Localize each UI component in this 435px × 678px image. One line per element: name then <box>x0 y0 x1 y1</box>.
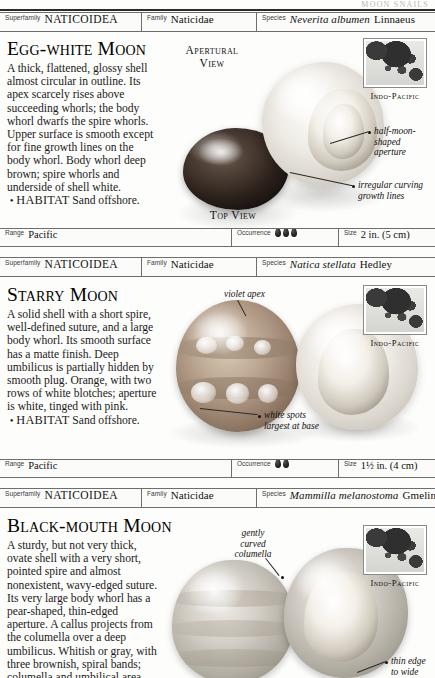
superfamily-value: NATICOIDEA <box>44 13 118 25</box>
taxonomy-species-cell: Species Natica stellata Hedley <box>257 258 435 276</box>
occurrence-icons <box>275 460 289 468</box>
map-graphic <box>366 528 424 572</box>
distribution-map <box>363 285 427 335</box>
range-value: Pacific <box>28 460 57 471</box>
map-caption-indo-pacific: Indo-Pacific <box>355 578 435 588</box>
callout-dot <box>281 576 284 579</box>
callout-half-moon-aperture: half-moon- shaped aperture <box>374 126 416 158</box>
range-cell: Range Pacific <box>0 229 232 246</box>
habitat-label: HABITAT <box>16 413 69 427</box>
habitat-label: HABITAT <box>16 193 69 207</box>
map-caption-indo-pacific: Indo-Pacific <box>355 338 435 348</box>
callout-thin-edge: thin edge to wide <box>391 656 426 677</box>
habitat-text: Sand offshore. <box>72 414 139 427</box>
occurrence-label: Occurrence <box>237 229 271 236</box>
shell-icon <box>283 229 289 237</box>
superfamily-value: NATICOIDEA <box>44 489 118 501</box>
occurrence-icons <box>275 229 297 237</box>
map-caption-indo-pacific: Indo-Pacific <box>355 91 435 101</box>
entry-description-starry-moon: A solid shell with a short spire, well-d… <box>7 308 159 427</box>
description-text: A thick, flattened, glossy shell almost … <box>7 62 153 194</box>
superfamily-label: Superfamily <box>5 259 40 266</box>
shell-icon <box>275 460 281 468</box>
shell-photo-black-mouth-front <box>172 560 294 678</box>
field-guide-page: MOON SNAILS Superfamily NATICOIDEA Famil… <box>0 0 435 678</box>
range-label: Range <box>5 460 24 467</box>
family-value: Naticidae <box>171 258 214 270</box>
superfamily-value: NATICOIDEA <box>44 258 118 270</box>
taxonomy-family-cell: Family Naticidae <box>142 258 257 276</box>
occurrence-cell: Occurrence <box>232 229 339 246</box>
map-graphic <box>366 41 424 85</box>
entry-description-egg-white-moon: A thick, flattened, glossy shell almost … <box>7 62 159 207</box>
taxonomy-family-cell: Family Naticidae <box>142 13 257 31</box>
occurrence-label: Occurrence <box>237 460 271 467</box>
callout-violet-apex: violet apex <box>224 289 265 300</box>
top-rule <box>0 9 435 11</box>
taxonomy-bar: Superfamily NATICOIDEA Family Naticidae … <box>0 257 435 277</box>
species-binomial: Neverita albumen <box>290 13 370 25</box>
map-graphic <box>366 288 424 332</box>
distribution-map <box>363 525 427 575</box>
taxonomy-superfamily-cell: Superfamily NATICOIDEA <box>0 258 142 276</box>
species-author: Hedley <box>360 258 392 270</box>
habitat-text: Sand offshore. <box>72 194 139 207</box>
entry-description-black-mouth-moon: A sturdy, but not very thick, ovate shel… <box>7 539 159 678</box>
callout-curved-columella: gently curved columella <box>222 528 284 560</box>
size-value: 1½ in. (4 cm) <box>361 460 418 471</box>
range-cell: Range Pacific <box>0 460 232 477</box>
size-cell: Size 1½ in. (4 cm) <box>339 460 435 477</box>
shell-icon <box>291 229 297 237</box>
entry-title-egg-white-moon: Egg-white Moon <box>7 38 146 60</box>
entry-title-starry-moon: Starry Moon <box>7 284 118 306</box>
shell-icon <box>283 460 289 468</box>
view-caption-apertural: Apertural View <box>172 44 252 69</box>
species-entry-egg-white-moon: Superfamily NATICOIDEA Family Naticidae … <box>0 12 435 32</box>
description-text: A solid shell with a short spire, well-d… <box>7 308 156 413</box>
species-author: Linnaeus <box>374 13 415 25</box>
taxonomy-species-cell: Species Mammilla melanostoma Gmelin <box>257 489 435 507</box>
size-value: 2 in. (5 cm) <box>361 229 410 240</box>
species-entry-starry-moon: Superfamily NATICOIDEA Family Naticidae … <box>0 257 435 277</box>
species-label: Species <box>262 490 286 497</box>
shell-icon <box>275 229 281 237</box>
species-author: Gmelin <box>402 489 435 501</box>
size-cell: Size 2 in. (5 cm) <box>339 229 435 246</box>
species-label: Species <box>262 14 286 21</box>
taxonomy-superfamily-cell: Superfamily NATICOIDEA <box>0 13 142 31</box>
family-label: Family <box>147 14 167 21</box>
habitat-bullet: • <box>7 194 16 206</box>
habitat-bullet: • <box>7 414 16 426</box>
data-bar: Range Pacific Occurrence Size 2 in. (5 c… <box>0 228 435 247</box>
taxonomy-bar: Superfamily NATICOIDEA Family Naticidae … <box>0 12 435 32</box>
superfamily-label: Superfamily <box>5 490 40 497</box>
superfamily-label: Superfamily <box>5 14 40 21</box>
range-value: Pacific <box>28 229 57 240</box>
family-value: Naticidae <box>171 489 214 501</box>
taxonomy-bar: Superfamily NATICOIDEA Family Naticidae … <box>0 488 435 508</box>
family-value: Naticidae <box>171 13 214 25</box>
size-label: Size <box>344 460 357 467</box>
callout-growth-lines: irregular curving growth lines <box>358 180 423 201</box>
taxonomy-superfamily-cell: Superfamily NATICOIDEA <box>0 489 142 507</box>
size-label: Size <box>344 229 357 236</box>
species-label: Species <box>262 259 286 266</box>
taxonomy-species-cell: Species Neverita albumen Linnaeus <box>257 13 435 31</box>
taxonomy-family-cell: Family Naticidae <box>142 489 257 507</box>
view-caption-top: Top View <box>188 209 278 222</box>
distribution-map <box>363 38 427 88</box>
species-binomial: Natica stellata <box>290 258 356 270</box>
species-binomial: Mammilla melanostoma <box>290 489 399 501</box>
family-label: Family <box>147 259 167 266</box>
occurrence-cell: Occurrence <box>232 460 339 477</box>
data-bar: Range Pacific Occurrence Size 1½ in. (4 … <box>0 459 435 478</box>
family-label: Family <box>147 490 167 497</box>
description-text: A sturdy, but not very thick, ovate shel… <box>7 539 157 678</box>
callout-white-spots: white spots largest at base <box>264 410 319 431</box>
species-entry-black-mouth-moon: Superfamily NATICOIDEA Family Naticidae … <box>0 488 435 508</box>
range-label: Range <box>5 229 24 236</box>
entry-title-black-mouth-moon: Black-mouth Moon <box>7 515 172 537</box>
